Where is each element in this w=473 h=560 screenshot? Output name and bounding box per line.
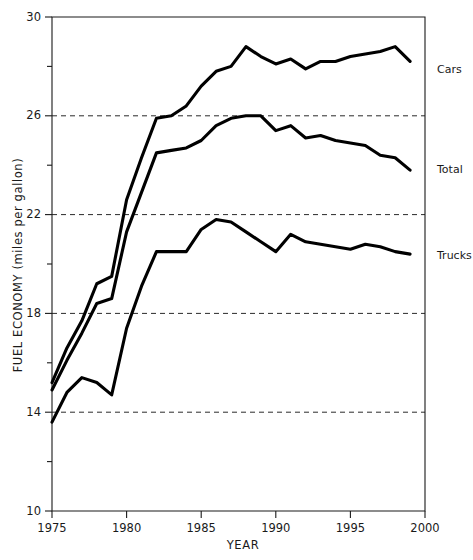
y-tick-label-10: 10 (26, 504, 41, 518)
plot-frame (52, 17, 425, 511)
gridlines-group (52, 116, 425, 412)
x-tick-label-2000: 2000 (410, 521, 439, 535)
x-tick-label-1990: 1990 (261, 521, 290, 535)
figure-container: 101418222630197519801985199019952000 Car… (0, 0, 473, 560)
y-tick-label-22: 22 (26, 207, 41, 221)
tick-marks-group (45, 17, 425, 518)
x-tick-label-1980: 1980 (112, 521, 141, 535)
series-line-cars (52, 47, 410, 383)
tick-labels-group: 101418222630197519801985199019952000 (26, 10, 439, 536)
y-tick-label-18: 18 (26, 306, 41, 320)
y-tick-label-30: 30 (26, 10, 41, 24)
series-label-cars: Cars (437, 63, 462, 76)
series-label-trucks: Trucks (436, 249, 472, 262)
series-label-total: Total (436, 163, 463, 176)
series-paths-group (52, 47, 410, 422)
y-tick-label-26: 26 (26, 108, 41, 122)
x-tick-label-1975: 1975 (37, 521, 66, 535)
y-tick-label-14: 14 (26, 405, 41, 419)
y-axis-title: FUEL ECONOMY (miles per gallon) (11, 158, 25, 373)
series-line-trucks (52, 220, 410, 423)
axes-frame (52, 17, 425, 511)
series-labels-group: CarsTotalTrucks (436, 63, 472, 262)
x-axis-title: YEAR (226, 538, 260, 552)
line-chart: 101418222630197519801985199019952000 Car… (0, 0, 473, 560)
series-line-total (52, 116, 410, 390)
x-tick-label-1985: 1985 (187, 521, 216, 535)
x-tick-label-1995: 1995 (336, 521, 365, 535)
